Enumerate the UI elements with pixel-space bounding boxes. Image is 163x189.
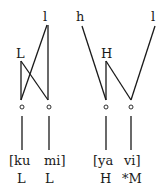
node-circle-vi	[129, 105, 133, 109]
right-structure: h l H [ya vi] H *M	[76, 9, 155, 186]
assoc-line-L-to-mi	[21, 61, 48, 100]
right-register-h: h	[76, 9, 85, 24]
right-tone-H: H	[101, 46, 112, 61]
surface-tone-mi: L	[45, 171, 54, 186]
surface-tone-ya: H	[100, 171, 111, 186]
syllable-mi: mi]	[44, 153, 66, 168]
autosegmental-diagram: l L [ku mi] L L h l H	[0, 0, 163, 189]
left-register-l: l	[43, 9, 47, 24]
left-structure: l L [ku mi] L L	[9, 9, 66, 186]
assoc-line-H-to-vi	[106, 61, 131, 100]
right-register-l: l	[151, 9, 155, 24]
node-circle-ya	[104, 105, 108, 109]
assoc-line-l-to-ku	[21, 25, 47, 100]
assoc-line-h-to-ya	[82, 26, 106, 100]
surface-tone-ku: L	[17, 171, 26, 186]
node-circle-ku	[20, 105, 24, 109]
node-circle-mi	[47, 105, 51, 109]
surface-tone-vi: *M	[122, 171, 142, 186]
syllable-ya: [ya	[93, 153, 113, 168]
syllable-ku: [ku	[9, 153, 30, 168]
assoc-line-l-to-vi	[131, 26, 155, 100]
left-tone-L: L	[16, 46, 25, 61]
syllable-vi: vi]	[123, 153, 141, 168]
